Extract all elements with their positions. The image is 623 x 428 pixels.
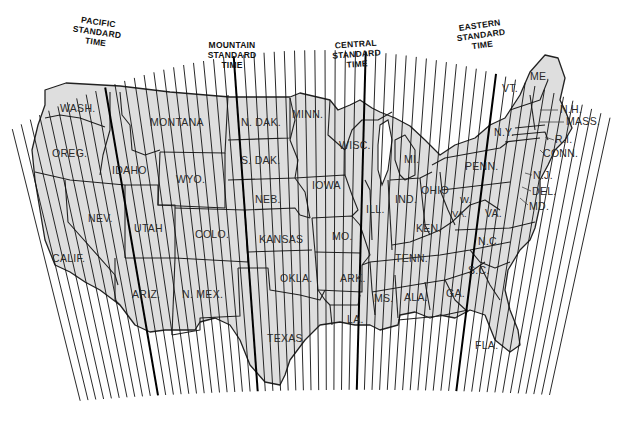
state-label-minn: MINN. xyxy=(292,108,323,120)
state-label-ariz: ARIZ. xyxy=(132,288,160,300)
state-label-mo: MO. xyxy=(332,230,353,242)
state-label-ala: ALA. xyxy=(404,291,428,303)
state-label-ken: KEN. xyxy=(416,222,442,234)
state-label-ohio: OHIO xyxy=(421,184,449,196)
state-label-conn: CONN. xyxy=(543,147,578,159)
state-label-penn: PENN. xyxy=(465,160,499,172)
state-label-sc: S.C. xyxy=(468,264,490,276)
state-label-texas: TEXAS xyxy=(267,332,303,344)
state-label-iowa: IOWA xyxy=(312,179,341,191)
state-label-montana: MONTANA xyxy=(150,116,204,128)
time-zone-label-eastern: EASTERN STANDARD TIME xyxy=(455,17,507,53)
state-label-ga: GA. xyxy=(446,287,465,299)
state-label-wisc: WISC. xyxy=(339,139,371,151)
state-label-del: DEL. xyxy=(532,185,557,197)
state-label-mi: MI. xyxy=(404,153,419,165)
state-label-nh: N.H. xyxy=(560,103,582,115)
state-label-calif: CALIF. xyxy=(52,252,85,264)
state-label-ind: IND. xyxy=(395,193,417,205)
state-label-idaho: IDAHO xyxy=(112,164,147,176)
state-label-fla: FLA. xyxy=(475,339,498,351)
state-label-ark: ARK. xyxy=(340,272,366,284)
svg-text:TIME: TIME xyxy=(84,35,106,48)
state-label-kansas: KANSAS xyxy=(259,233,303,245)
state-label-vt: VT. xyxy=(502,82,518,94)
state-label-nmex: N. MEX. xyxy=(182,288,223,300)
state-label-wva-va: VA. xyxy=(452,208,467,219)
svg-text:TIME: TIME xyxy=(471,38,493,51)
state-label-wva-w: W. xyxy=(460,194,471,205)
state-label-nev: NEV. xyxy=(88,212,113,224)
time-zone-map: PACIFIC STANDARD TIME MOUNTAIN STANDARD … xyxy=(0,0,623,428)
state-label-wyo: WYO. xyxy=(176,173,205,185)
state-label-ms: MS. xyxy=(374,292,394,304)
state-label-ri: R.I. xyxy=(555,133,573,145)
svg-text:TIME: TIME xyxy=(221,60,242,70)
state-label-ny: N.Y. xyxy=(494,126,514,138)
state-label-sdak: S. DAK. xyxy=(241,154,280,166)
meridian-line xyxy=(550,118,611,395)
state-label-mass: MASS. xyxy=(566,115,600,127)
state-label-utah: UTAH xyxy=(134,222,163,234)
svg-text:STANDARD: STANDARD xyxy=(208,50,257,60)
state-label-md: MD. xyxy=(529,200,549,212)
state-label-ill: ILL. xyxy=(366,203,385,215)
svg-text:TIME: TIME xyxy=(346,58,368,69)
state-label-colo: COLO. xyxy=(195,228,229,240)
state-label-wash: WASH. xyxy=(60,102,96,114)
state-label-la: LA. xyxy=(347,313,364,325)
state-label-tenn: TENN. xyxy=(395,252,428,264)
state-label-nc: N.C. xyxy=(478,235,500,247)
state-label-va: VA. xyxy=(485,207,502,219)
state-label-okla: OKLA. xyxy=(280,272,312,284)
state-label-me: ME. xyxy=(530,70,550,82)
time-zone-label-pacific: PACIFIC STANDARD TIME xyxy=(71,14,123,50)
state-label-oreg: OREG. xyxy=(52,147,87,159)
time-zone-label-mountain: MOUNTAIN STANDARD TIME xyxy=(208,40,257,70)
state-label-neb: NEB. xyxy=(255,193,281,205)
state-label-nj: N.J. xyxy=(533,169,553,181)
svg-text:MOUNTAIN: MOUNTAIN xyxy=(209,40,256,50)
state-label-ndak: N. DAK. xyxy=(241,116,281,128)
time-zone-label-central: CENTRAL STANDARD TIME xyxy=(331,37,382,70)
